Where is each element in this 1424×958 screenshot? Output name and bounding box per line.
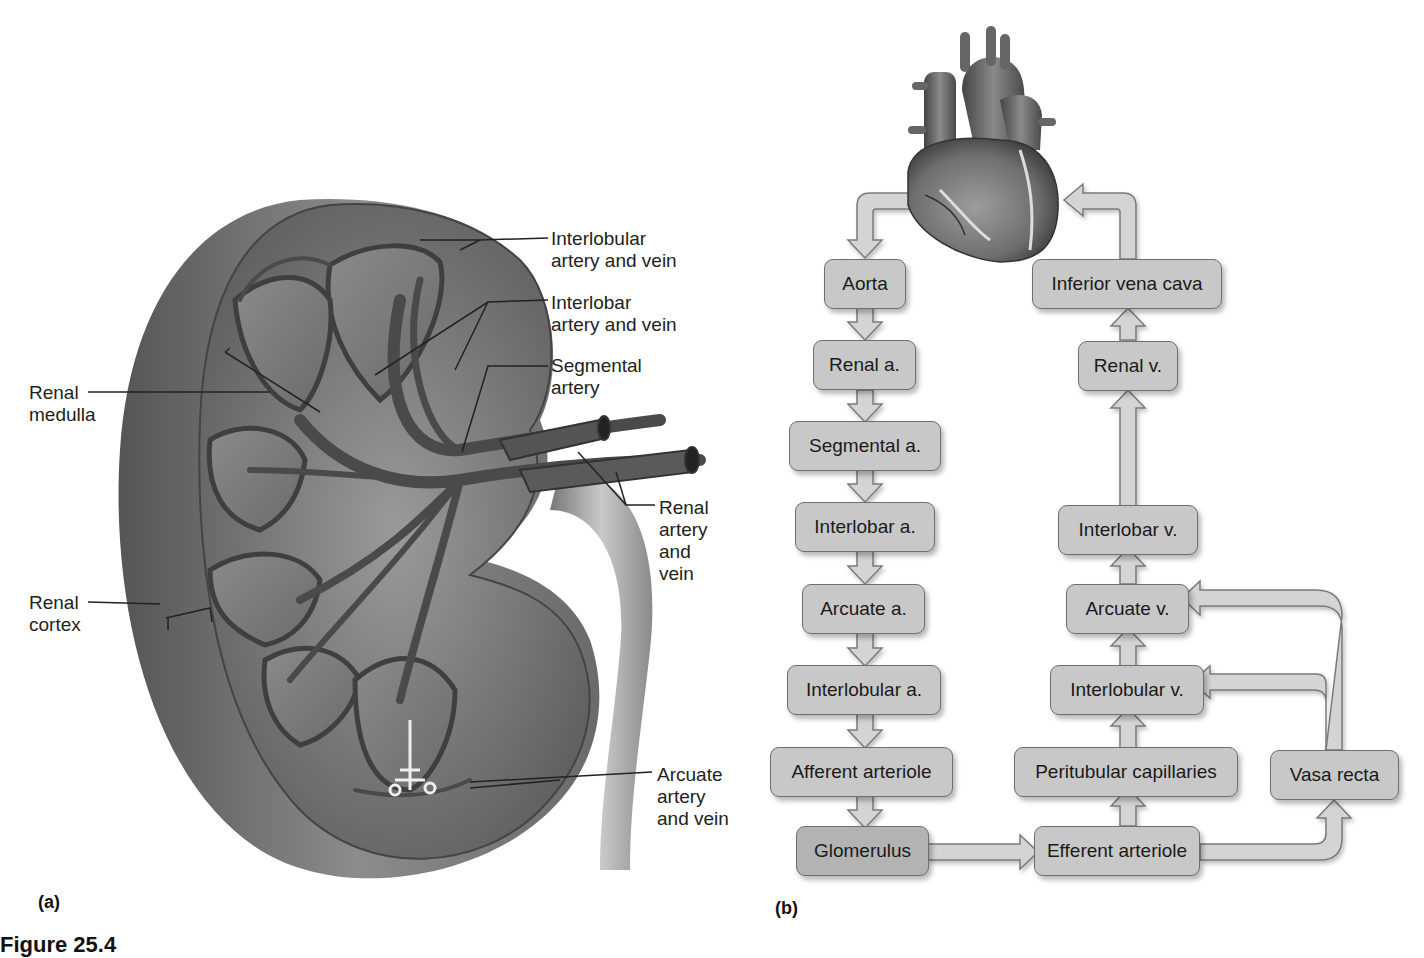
box-peritubular-capillaries: Peritubular capillaries (1014, 747, 1238, 797)
box-interlobular-v: Interlobular v. (1050, 665, 1204, 715)
box-interlobar-v: Interlobar v. (1058, 505, 1198, 555)
heart-body (908, 138, 1058, 262)
box-glomerulus: Glomerulus (796, 826, 929, 876)
box-renal-a: Renal a. (813, 340, 916, 390)
box-inferior-vena-cava: Inferior vena cava (1032, 259, 1222, 309)
box-vasa-recta: Vasa recta (1270, 750, 1399, 800)
box-interlobar-a: Interlobar a. (795, 502, 935, 552)
box-renal-v: Renal v. (1078, 341, 1178, 391)
box-afferent-arteriole: Afferent arteriole (770, 747, 953, 797)
box-arcuate-a: Arcuate a. (802, 584, 925, 634)
box-arcuate-v: Arcuate v. (1066, 584, 1189, 634)
box-interlobular-a: Interlobular a. (787, 665, 941, 715)
figure-caption: Figure 25.4 (0, 932, 116, 958)
box-efferent-arteriole: Efferent arteriole (1034, 826, 1200, 876)
panel-b-letter: (b) (775, 898, 798, 919)
box-aorta: Aorta (824, 259, 906, 309)
box-segmental-a: Segmental a. (789, 421, 941, 471)
